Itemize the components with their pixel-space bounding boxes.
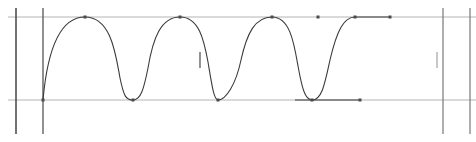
anchor-bottom-end[interactable]	[359, 99, 362, 102]
curve-editor-canvas[interactable]	[0, 0, 476, 142]
anchor-trough-1[interactable]	[132, 99, 135, 102]
anchor-peak-3[interactable]	[271, 16, 274, 19]
anchor-peak-2[interactable]	[179, 16, 182, 19]
anchor-start[interactable]	[42, 99, 45, 102]
anchor-peak-4[interactable]	[354, 16, 357, 19]
anchor-hold-mid[interactable]	[317, 16, 320, 19]
anchor-trough-2[interactable]	[217, 99, 220, 102]
anchor-end[interactable]	[389, 16, 392, 19]
anchor-trough-3[interactable]	[311, 99, 314, 102]
curve-canvas-svg[interactable]	[0, 0, 476, 142]
anchor-peak-1[interactable]	[84, 16, 87, 19]
